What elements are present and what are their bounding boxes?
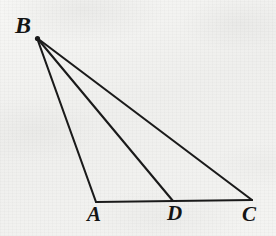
segment-ba (37, 38, 96, 202)
segment-bd (37, 38, 173, 201)
vertex-label-b: B (15, 13, 31, 37)
vertex-label-c: C (242, 204, 256, 225)
vertex-label-d: D (167, 203, 182, 224)
segment-bc (37, 38, 252, 200)
vertex-label-a: A (87, 204, 101, 225)
triangle-strokes (35, 36, 252, 202)
geometry-figure: B A D C (0, 0, 276, 236)
vertex-b-point (35, 36, 40, 41)
triangle-diagram-svg (0, 0, 276, 236)
